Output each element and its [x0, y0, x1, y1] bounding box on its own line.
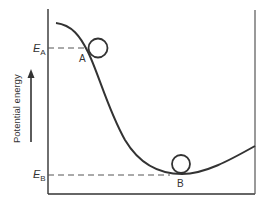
up-arrow-icon — [28, 69, 35, 78]
point-b-label: B — [177, 178, 184, 189]
energy-curve — [56, 23, 255, 174]
potential-energy-diagram: EA EB A B Potential energy — [0, 0, 271, 208]
ball-a — [89, 39, 108, 58]
ball-b — [172, 155, 190, 173]
y-axis-label: Potential energy — [11, 74, 22, 143]
level-a-label: EA — [33, 42, 46, 57]
level-b-label: EB — [33, 168, 46, 183]
point-a-label: A — [79, 53, 86, 64]
